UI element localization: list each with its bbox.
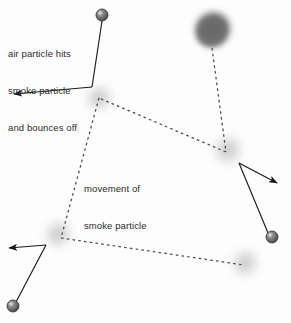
incoming-arrow-right <box>239 163 268 233</box>
incoming-arrow-top <box>92 21 102 87</box>
smoke-particle-lower-right <box>219 237 271 289</box>
movement-label-line-1: movement of <box>84 183 147 195</box>
outgoing-arrow-right <box>239 163 277 183</box>
smoke-particle-lower-left <box>32 208 84 260</box>
smoke-particle-dark-top <box>182 1 243 62</box>
air-particle-highlight <box>268 233 271 236</box>
collision-label-line-3: and bounces off <box>8 122 77 134</box>
air-particle-highlight <box>98 11 101 14</box>
air-particle-collision-label: air particle hits smoke particle and bou… <box>8 24 77 158</box>
incoming-arrow-bottom-left <box>16 245 46 302</box>
brownian-motion-diagram: air particle hits smoke particle and bou… <box>0 0 291 323</box>
air-particle-highlight <box>9 302 12 305</box>
smoke-particle-movement-label: movement of smoke particle <box>84 159 147 257</box>
collision-label-line-2: smoke particle <box>8 85 77 97</box>
air-particle-right <box>266 231 278 243</box>
smoke-particle-right-mid <box>200 122 255 177</box>
outgoing-arrow-bottom-left <box>9 245 46 248</box>
collision-label-line-1: air particle hits <box>8 48 77 60</box>
air-particle-top <box>96 9 108 21</box>
movement-label-line-2: smoke particle <box>84 220 147 232</box>
air-particle-bottom-left <box>7 300 19 312</box>
path-segment-2 <box>99 98 226 152</box>
